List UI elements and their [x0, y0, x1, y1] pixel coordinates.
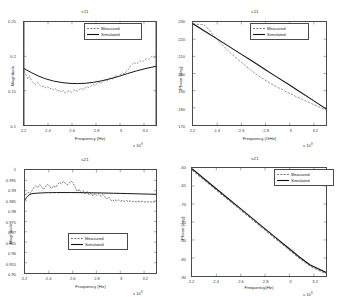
x-tick-label: 3: [120, 128, 122, 133]
plot-canvas: [25, 170, 156, 273]
panel-s11-phase: s11 Phase (deg) 230 220 210 200 190 180 …: [170, 0, 340, 149]
x-tick-label: 2.4: [213, 279, 219, 284]
legend-line-dashed-icon: [277, 173, 289, 176]
y-tick-label: 1: [0, 167, 16, 172]
exponent-power: 9: [141, 290, 143, 294]
y-tick-label: -85: [169, 256, 186, 261]
x-tick-label: 2.8: [263, 279, 269, 284]
x-tick-label: 3.2: [142, 276, 148, 281]
legend-label-simulated: Simulated: [101, 32, 120, 37]
panel-s21-magnitude: s21 Magnitude 1 0.995 0.99 0.985 0.98 0.…: [0, 148, 170, 297]
exponent-power: 9: [311, 142, 313, 146]
series-measured: [25, 181, 156, 202]
y-tick-label: 0.97: [0, 230, 16, 235]
x-tick-label: 2.2: [189, 279, 195, 284]
y-tick-label: 180: [167, 106, 185, 111]
x-tick-label: 2.6: [70, 276, 76, 281]
panel-title: s11: [0, 9, 170, 15]
y-tick-label: 0.25: [0, 19, 16, 24]
x-tick-label: 2.6: [239, 128, 245, 133]
y-tick-label: 0.96: [0, 251, 16, 256]
legend-row-simulated: Simulated: [71, 242, 125, 247]
x-tick-label: 2.2: [22, 276, 28, 281]
y-tick-label: 0.99: [0, 188, 16, 193]
legend[interactable]: Measured Simulated: [274, 169, 334, 186]
x-axis-exponent: x 109: [303, 291, 313, 297]
y-tick-label: 0.2: [0, 54, 16, 59]
legend-line-solid-icon: [87, 33, 99, 36]
exponent-base: x 10: [303, 292, 311, 297]
legend-row-simulated: Simulated: [87, 32, 139, 37]
legend-label-measured: Measured: [267, 26, 286, 31]
y-tick-label: 0.15: [0, 89, 16, 94]
x-tick-label: 2.4: [46, 276, 52, 281]
legend-label-measured: Measured: [85, 236, 104, 241]
legend-line-dashed-icon: [253, 27, 265, 30]
panel-s21-phase: s21 Phase (deg) -60 -65 -70 -75 -80 -85 …: [170, 148, 340, 297]
panel-title: s21: [0, 157, 170, 163]
series-measured: [24, 56, 156, 93]
x-tick-label: 2.8: [94, 128, 100, 133]
exponent-power: 9: [311, 291, 313, 295]
x-tick-label: 3.2: [312, 128, 318, 133]
legend[interactable]: Measured Simulated: [84, 23, 142, 40]
legend-label-simulated: Simulated: [267, 32, 286, 37]
legend-label-measured: Measured: [101, 26, 120, 31]
x-tick-label: 3.2: [142, 128, 148, 133]
x-tick-label: 3: [120, 276, 122, 281]
y-tick-label: 190: [167, 89, 185, 94]
y-tick-label: -80: [169, 238, 186, 243]
series-simulated: [24, 66, 156, 83]
legend-label-simulated: Simulated: [291, 178, 310, 183]
exponent-base: x 10: [133, 291, 141, 296]
y-tick-label: 0.95: [0, 272, 16, 277]
x-tick-label: 2.2: [21, 128, 27, 133]
x-tick-label: 2.6: [238, 279, 244, 284]
legend-row-measured: Measured: [277, 172, 331, 177]
legend[interactable]: Measured Simulated: [250, 23, 309, 40]
y-tick-label: 200: [167, 71, 185, 76]
tick-marks: [25, 170, 156, 273]
y-tick-label: 210: [167, 54, 185, 59]
exponent-power: 9: [141, 142, 143, 146]
legend[interactable]: Measured Simulated: [68, 233, 128, 250]
legend-line-dashed-icon: [71, 237, 83, 240]
x-tick-label: 3.2: [312, 279, 318, 284]
y-tick-label: -70: [169, 201, 186, 206]
x-tick-label: 2.4: [214, 128, 220, 133]
panel-s11-magnitude: s11 Magnitude 0.25 0.2 0.15 0.1: [0, 0, 170, 149]
y-tick-label: 220: [167, 36, 185, 41]
legend-row-measured: Measured: [253, 26, 306, 31]
y-tick-label: -75: [169, 220, 186, 225]
panel-title: s11: [170, 9, 340, 15]
legend-line-solid-icon: [71, 243, 83, 246]
y-tick-label: 0.965: [0, 240, 16, 245]
x-tick-label: 2.8: [94, 276, 100, 281]
y-tick-label: 170: [167, 124, 185, 129]
legend-row-measured: Measured: [71, 236, 125, 241]
panel-title: s21: [170, 156, 340, 162]
y-tick-label: 0.955: [0, 261, 16, 266]
y-tick-label: 230: [167, 19, 185, 24]
x-tick-label: 2.2: [190, 128, 196, 133]
y-tick-label: 0.995: [0, 177, 16, 182]
y-tick-label: -90: [169, 275, 186, 280]
y-tick-label: 0.98: [0, 209, 16, 214]
legend-label-measured: Measured: [291, 172, 310, 177]
legend-line-solid-icon: [277, 179, 289, 182]
legend-label-simulated: Simulated: [85, 242, 104, 247]
x-tick-label: 2.4: [45, 128, 51, 133]
y-tick-label: -60: [169, 165, 186, 170]
plot-area: [24, 169, 157, 274]
y-tick-label: 0.1: [0, 124, 16, 129]
y-tick-label: 0.985: [0, 198, 16, 203]
matlab-figure: s11 Magnitude 0.25 0.2 0.15 0.1: [0, 0, 340, 297]
legend-line-dashed-icon: [87, 27, 99, 30]
legend-line-solid-icon: [253, 33, 265, 36]
legend-row-measured: Measured: [87, 26, 139, 31]
y-axis-label: Magnitude: [10, 66, 15, 86]
x-axis-exponent: x 109: [133, 290, 143, 296]
x-tick-label: 2.8: [263, 128, 269, 133]
legend-row-simulated: Simulated: [277, 178, 331, 183]
x-tick-label: 3: [289, 279, 291, 284]
